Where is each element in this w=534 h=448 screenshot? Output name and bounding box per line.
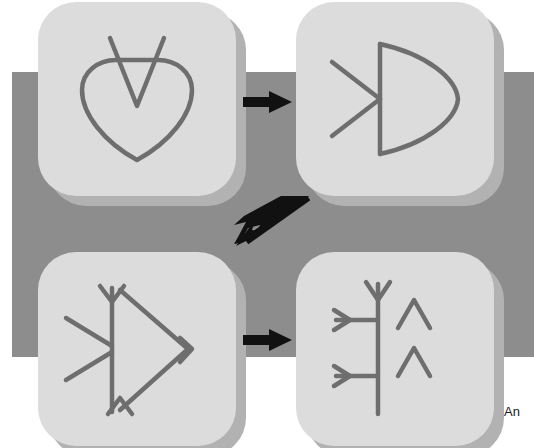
- caption-line-1: An: [504, 404, 534, 420]
- figure-root: An an: [0, 0, 534, 448]
- leaf-outline-with-v-icon: [38, 2, 236, 196]
- arrow-diagonal-down-left: [226, 196, 310, 248]
- truncated-caption: An an: [504, 372, 534, 448]
- arrow-right-top: [243, 90, 293, 114]
- arrow-right-bottom: [243, 328, 293, 352]
- panel-top-left: [38, 2, 236, 196]
- stem-with-branches-and-chevrons-icon: [296, 252, 494, 446]
- d-shape-with-v-leads-icon: [296, 2, 494, 196]
- panel-bottom-right: [296, 252, 494, 446]
- triangle-with-arrowheads-icon: [38, 252, 236, 446]
- panel-bottom-left: [38, 252, 236, 446]
- panel-top-right: [296, 2, 494, 196]
